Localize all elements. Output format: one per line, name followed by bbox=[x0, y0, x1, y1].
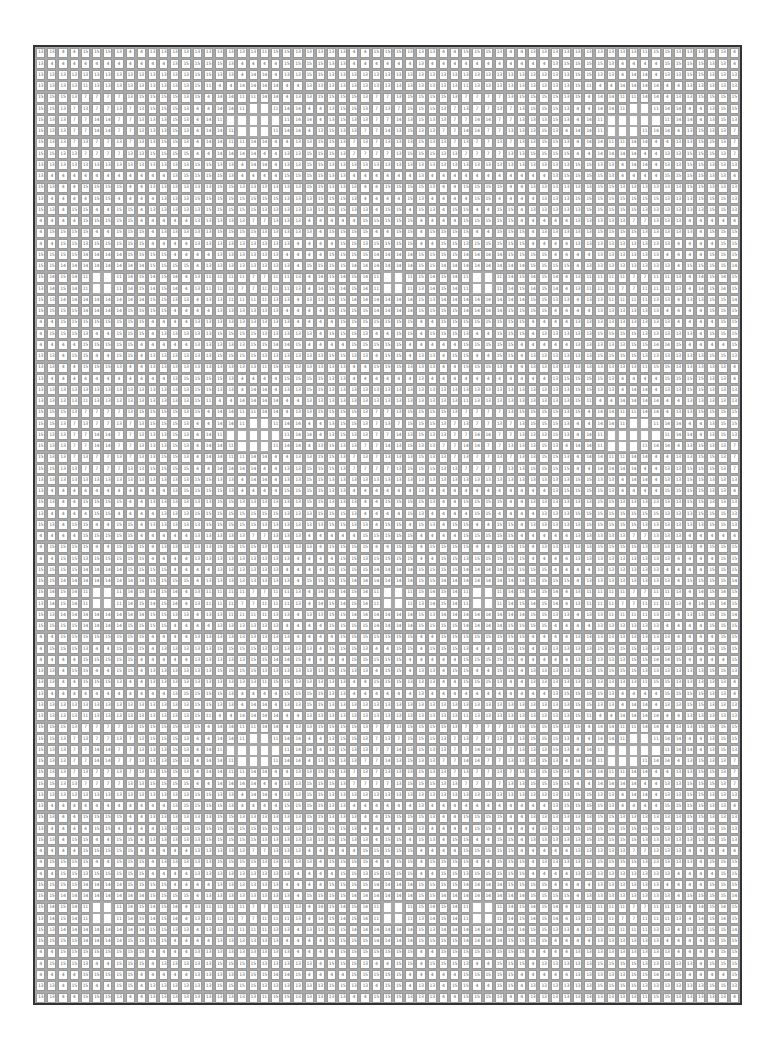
grid-cell: 15 bbox=[236, 666, 247, 677]
cell-number: 13 bbox=[237, 846, 246, 856]
grid-cell: 4 bbox=[57, 992, 68, 1003]
grid-cell: 13 bbox=[248, 632, 259, 643]
grid-cell: 4 bbox=[438, 58, 449, 69]
cell-number: 7 bbox=[81, 745, 90, 755]
cell-number: 13 bbox=[685, 228, 694, 238]
cell-number: 13 bbox=[528, 70, 537, 80]
cell-number: 13 bbox=[36, 194, 45, 204]
grid-cell: 14 bbox=[628, 70, 639, 81]
grid-cell: 15 bbox=[57, 902, 68, 913]
grid-cell: 4 bbox=[505, 992, 516, 1003]
cell-number: 13 bbox=[159, 520, 168, 530]
grid-cell: 7 bbox=[80, 430, 91, 441]
grid-cell: 4 bbox=[203, 463, 214, 474]
cell-number: 4 bbox=[237, 374, 246, 384]
cell-number: 11 bbox=[461, 81, 470, 91]
grid-cell: 14 bbox=[717, 587, 728, 598]
grid-cell: 15 bbox=[371, 655, 382, 666]
grid-cell: 11 bbox=[281, 598, 292, 609]
grid-cell: 13 bbox=[158, 362, 169, 373]
cell-number: 7 bbox=[103, 104, 112, 114]
grid-cell: 15 bbox=[169, 778, 180, 789]
cell-number: 15 bbox=[685, 149, 694, 159]
grid-cell: 13 bbox=[550, 351, 561, 362]
cell-number: 4 bbox=[70, 509, 79, 519]
cell-number: 13 bbox=[730, 70, 739, 80]
cell-number: 4 bbox=[372, 59, 381, 69]
cell-number: 4 bbox=[383, 59, 392, 69]
cell-number: 15 bbox=[539, 610, 548, 620]
grid-cell: 4 bbox=[259, 373, 270, 384]
cell-number: 4 bbox=[360, 183, 369, 193]
grid-cell: 15 bbox=[449, 542, 460, 553]
grid-cell: 13 bbox=[650, 216, 661, 227]
cell-number: 13 bbox=[316, 295, 325, 305]
cell-number: 4 bbox=[316, 858, 325, 868]
grid-cell: 13 bbox=[292, 193, 303, 204]
grid-cell: 7 bbox=[371, 418, 382, 429]
cell-number: 13 bbox=[338, 81, 347, 91]
grid-cell: 15 bbox=[225, 497, 236, 508]
grid-cell: 15 bbox=[393, 497, 404, 508]
grid-cell: 13 bbox=[113, 47, 124, 58]
grid-cell: 4 bbox=[46, 823, 57, 834]
cell-number: 14 bbox=[372, 936, 381, 946]
cell-number: 13 bbox=[215, 318, 224, 328]
grid-cell: 15 bbox=[337, 430, 348, 441]
grid-cell: 14 bbox=[270, 407, 281, 418]
cell-number: 7 bbox=[70, 768, 79, 778]
grid-cell: 15 bbox=[382, 992, 393, 1003]
cell-number: 11 bbox=[618, 610, 627, 620]
grid-cell: 13 bbox=[617, 182, 628, 193]
grid-cell: 15 bbox=[538, 250, 549, 261]
cell-number: 4 bbox=[338, 531, 347, 541]
cell-number: 15 bbox=[718, 205, 727, 215]
cell-number: 4 bbox=[293, 239, 302, 249]
cell-number: 15 bbox=[718, 295, 727, 305]
cell-number: 14 bbox=[260, 723, 269, 733]
cell-number: 15 bbox=[573, 93, 582, 103]
grid-cell: 15 bbox=[427, 328, 438, 339]
cell-number: 13 bbox=[92, 700, 101, 710]
cell-number: 4 bbox=[36, 543, 45, 553]
cell-number: 11 bbox=[640, 284, 649, 294]
cell-number: 15 bbox=[103, 183, 112, 193]
cell-number: 13 bbox=[573, 959, 582, 969]
cell-number: 13 bbox=[159, 48, 168, 58]
grid-cell: 15 bbox=[348, 868, 359, 879]
cell-number: 4 bbox=[484, 171, 493, 181]
grid-cell: 13 bbox=[337, 441, 348, 452]
grid-cell: 13 bbox=[348, 430, 359, 441]
cell-number: 15 bbox=[372, 48, 381, 58]
cell-number: 4 bbox=[193, 621, 202, 631]
cell-number: 13 bbox=[629, 250, 638, 260]
grid-cell: 13 bbox=[359, 430, 370, 441]
cell-number: 11 bbox=[237, 925, 246, 935]
cell-number: 13 bbox=[170, 183, 179, 193]
cell-number: 13 bbox=[405, 711, 414, 721]
grid-cell: 14 bbox=[248, 70, 259, 81]
cell-number: 14 bbox=[372, 261, 381, 271]
cell-number: 15 bbox=[607, 205, 616, 215]
grid-cell: 13 bbox=[169, 47, 180, 58]
cell-number: 4 bbox=[181, 318, 190, 328]
grid-cell: 4 bbox=[717, 216, 728, 227]
cell-number: 4 bbox=[651, 464, 660, 474]
grid-cell: 15 bbox=[225, 205, 236, 216]
cell-number: 15 bbox=[484, 655, 493, 665]
grid-cell: 13 bbox=[717, 171, 728, 182]
cell-number: 13 bbox=[663, 160, 672, 170]
grid-cell: 13 bbox=[337, 677, 348, 688]
cell-number: 4 bbox=[584, 779, 593, 789]
cell-number: 13 bbox=[551, 171, 560, 181]
cell-number: 15 bbox=[282, 678, 291, 688]
cell-number: 11 bbox=[640, 599, 649, 609]
cell-number: 13 bbox=[249, 565, 258, 575]
cell-number: 13 bbox=[338, 475, 347, 485]
cell-number: 4 bbox=[416, 970, 425, 980]
cell-number: 13 bbox=[416, 441, 425, 451]
cell-number: 14 bbox=[92, 115, 101, 125]
grid-cell: 4 bbox=[158, 970, 169, 981]
grid-cell: 13 bbox=[382, 103, 393, 114]
grid-cell: 11 bbox=[606, 272, 617, 283]
